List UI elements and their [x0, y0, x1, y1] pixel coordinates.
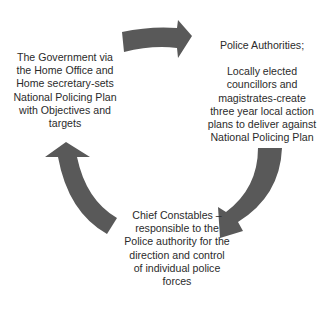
node-text-line: National Policing Plan — [200, 131, 322, 144]
node-text-line: forces — [108, 275, 246, 288]
node-police-authorities: Police Authorities; Locally elected coun… — [200, 39, 322, 144]
node-text-line: plans to deliver against — [200, 118, 322, 131]
node-text-line: the Home Office and — [4, 64, 126, 77]
policing-cycle-diagram: The Government via the Home Office and H… — [0, 0, 322, 314]
arrow-chief-constables-to-government-icon — [45, 142, 117, 234]
node-text-line: National Policing Plan — [4, 91, 126, 104]
arrow-government-to-police-authorities-icon — [122, 20, 192, 58]
node-text-line: councillors and — [200, 78, 322, 91]
node-text-line: Home secretary-sets — [4, 77, 126, 90]
node-text-line: Chief Constables – — [108, 209, 246, 222]
node-text-line: magistrates-create — [200, 92, 322, 105]
node-text-line: direction and control — [108, 249, 246, 262]
node-text-line: with Objectives and — [4, 104, 126, 117]
node-text-line: targets — [4, 117, 126, 130]
node-government: The Government via the Home Office and H… — [4, 51, 126, 130]
node-text-line: responsible to the — [108, 222, 246, 235]
node-text-line: Locally elected — [200, 65, 322, 78]
node-text-line: Police authority for the — [108, 235, 246, 248]
node-text-line: three year local action — [200, 105, 322, 118]
node-title: Police Authorities; — [200, 39, 322, 52]
node-text-line: of individual police — [108, 262, 246, 275]
node-chief-constables: Chief Constables – responsible to the Po… — [108, 209, 246, 288]
node-text-line: The Government via — [4, 51, 126, 64]
